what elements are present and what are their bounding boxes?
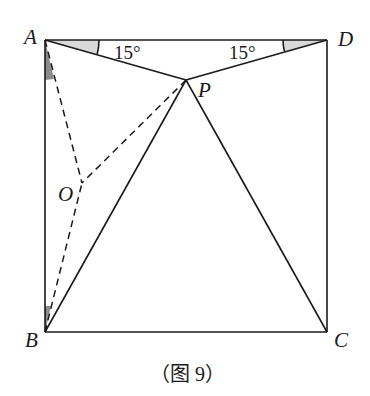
label-D: D — [337, 27, 353, 51]
angle-label-ADP: 15° — [229, 42, 256, 63]
segment-BP — [45, 80, 186, 332]
label-P: P — [197, 78, 211, 102]
segment-CP — [186, 80, 327, 332]
angle-label-DAP: 15° — [114, 42, 141, 63]
segment-AO — [45, 40, 82, 183]
label-A: A — [22, 25, 37, 49]
label-O: O — [58, 182, 73, 206]
geometry-figure: A D B C P O 15° 15° （图 9） — [0, 0, 370, 396]
segment-DP — [186, 40, 327, 80]
figure-caption: （图 9） — [150, 363, 225, 385]
segment-PO — [82, 80, 186, 183]
label-C: C — [334, 328, 349, 352]
label-B: B — [25, 328, 38, 352]
